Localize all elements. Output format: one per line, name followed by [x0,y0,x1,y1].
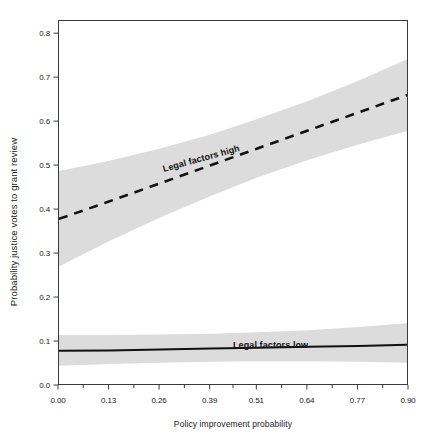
y-tick-label: 0.6 [24,117,50,126]
plot-canvas [59,21,408,385]
x-tick-label: 0.39 [190,396,230,405]
x-axis-tick-labels: 0.000.130.260.390.510.640.770.90 [0,396,433,410]
y-tick-label: 0.1 [24,337,50,346]
x-tick-label: 0.00 [38,396,78,405]
x-axis-title: Policy improvement probability [58,419,408,429]
y-tick-label: 0.4 [24,205,50,214]
y-tick-label: 0.7 [24,73,50,82]
series-label-legal-factors-low: Legal factors low [233,340,308,350]
chart-figure: Probability justice votes to grant revie… [0,0,433,444]
y-tick-label: 0.3 [24,249,50,258]
y-axis-tick-labels: 0.00.10.20.30.40.50.60.70.8 [22,0,50,444]
x-tick-label: 0.77 [337,396,377,405]
y-tick-label: 0.2 [24,293,50,302]
plot-area: Legal factors high Legal factors low [58,20,408,385]
confidence-band-legal-factors-high [59,58,408,266]
x-tick-label: 0.13 [89,396,129,405]
y-tick-label: 0.8 [24,29,50,38]
x-tick-label: 0.64 [287,396,327,405]
x-tick-label: 0.51 [236,396,276,405]
x-tick-label: 0.90 [388,396,428,405]
x-tick-label: 0.26 [139,396,179,405]
y-tick-label: 0.0 [24,381,50,390]
y-tick-label: 0.5 [24,161,50,170]
